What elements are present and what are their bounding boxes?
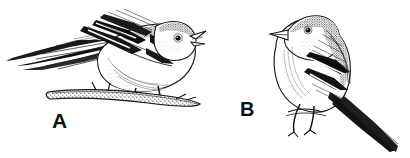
- panel-label-a: A: [52, 110, 68, 131]
- bird-a-eye: [175, 35, 180, 40]
- panel-label-b: B: [240, 99, 255, 119]
- bird-b-eye: [305, 27, 310, 32]
- bird-illustration-figure: A B: [0, 0, 410, 158]
- illustration-canvas: [0, 0, 410, 158]
